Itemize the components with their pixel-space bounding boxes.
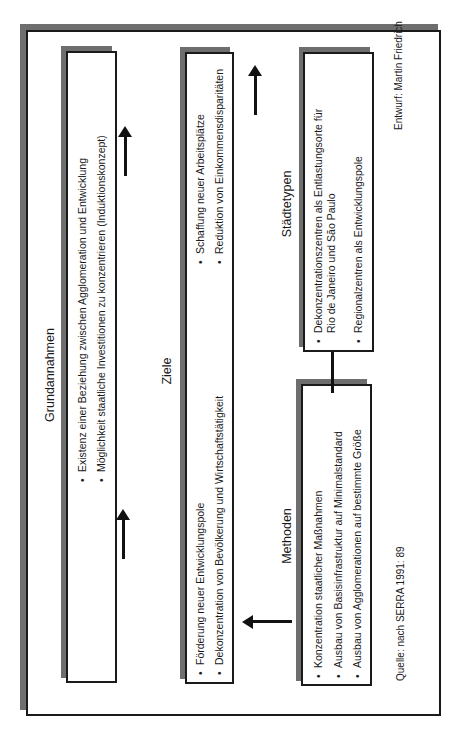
methoden-item: Ausbau von Agglomerationen auf bestimmte… bbox=[348, 429, 368, 678]
staedtetypen-title: Städtetypen bbox=[280, 171, 294, 238]
ziele-item: Reduktion von Einkommensdisparitäten bbox=[210, 69, 229, 264]
ziele-item: Förderung neuer Entwicklungspole bbox=[191, 396, 210, 675]
methoden-item: Ausbau von Basisinfrastruktur auf Minima… bbox=[329, 429, 349, 678]
ziele-list-right: Schaffung neuer Arbeitsplätze Reduktion … bbox=[191, 69, 229, 264]
grundannahmen-item: Möglichkeit staatliche Investitionen zu … bbox=[92, 135, 111, 482]
methoden-item: Konzentration staatlicher Maßnahmen bbox=[309, 429, 329, 678]
author-note: Entwurf: Martin Friedrich bbox=[393, 21, 404, 130]
grundannahmen-title: Grundannahmen bbox=[43, 328, 57, 422]
methoden-list: Konzentration staatlicher Maßnahmen Ausb… bbox=[309, 429, 368, 678]
methoden-title: Methoden bbox=[280, 508, 294, 564]
grundannahmen-list: Existenz einer Beziehung zwischen Agglom… bbox=[73, 135, 111, 482]
source-note: Quelle: nach SERRA 1991: 89 bbox=[395, 546, 406, 681]
staedtetypen-item: Dekonzentrationszentren als Entlastungso… bbox=[312, 109, 338, 343]
grundannahmen-item: Existenz einer Beziehung zwischen Agglom… bbox=[73, 135, 92, 482]
ziele-list-left: Förderung neuer Entwicklungspole Dekonze… bbox=[191, 396, 229, 675]
ziele-item: Dekonzentration von Bevölkerung und Wirt… bbox=[210, 396, 229, 675]
staedtetypen-item: Regionalzentren als Entwicklungspole bbox=[352, 109, 365, 343]
ziele-title: Ziele bbox=[160, 357, 174, 384]
staedtetypen-list: Dekonzentrationszentren als Entlastungso… bbox=[312, 109, 365, 343]
diagram-canvas: Grundannahmen Existenz einer Beziehung z… bbox=[0, 0, 459, 734]
ziele-item: Schaffung neuer Arbeitsplätze bbox=[191, 69, 210, 264]
